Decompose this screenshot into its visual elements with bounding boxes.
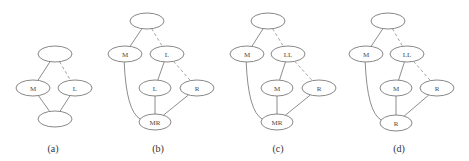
node-b-L: L — [150, 46, 184, 62]
node-c-M2: M — [261, 80, 293, 96]
node-b-top — [130, 13, 164, 29]
node-d-R: R — [420, 80, 454, 96]
edge-c-top-M — [252, 29, 263, 47]
caption-b: (b) — [152, 143, 164, 155]
node-label: M — [244, 51, 251, 59]
node-b-M: M — [108, 46, 142, 62]
caption-d: (d) — [393, 143, 405, 155]
node-ellipse — [130, 13, 164, 29]
edge-c-R-MR — [285, 95, 310, 115]
node-c-M: M — [230, 46, 264, 62]
node-label: R — [394, 120, 399, 128]
node-ellipse — [371, 13, 405, 29]
node-ellipse — [38, 46, 72, 62]
edge-c-LL-R — [295, 61, 313, 80]
node-label: MR — [272, 119, 283, 127]
edge-d-LL-R — [414, 61, 431, 80]
node-c-top — [251, 13, 285, 29]
edges-layer — [38, 29, 431, 120]
nodes-layer: MLMLLRMRMLLMRMRMLLMRR — [16, 13, 454, 131]
node-a-L: L — [58, 80, 92, 96]
node-label: R — [195, 85, 200, 93]
node-b-MR: MR — [139, 114, 171, 130]
caption-c: (c) — [272, 143, 283, 155]
edge-c-LL-M2 — [280, 62, 286, 80]
edge-d-top-LL — [392, 29, 402, 47]
captions-layer: (a)(b)(c)(d) — [47, 143, 404, 155]
edge-c-M-MR — [246, 62, 262, 119]
node-label: M — [30, 85, 37, 93]
node-label: L — [165, 51, 169, 59]
node-label: LL — [284, 51, 293, 59]
diagram-canvas: MLMLLRMRMLLMRMRMLLMRR (a)(b)(c)(d) — [0, 0, 469, 161]
node-a-bottom — [38, 111, 72, 127]
node-b-L2: L — [139, 80, 171, 96]
node-label: LL — [403, 51, 412, 59]
node-label: L — [153, 85, 157, 93]
caption-a: (a) — [47, 143, 58, 155]
edge-b-top-M — [130, 29, 142, 47]
node-a-M: M — [16, 80, 50, 96]
edge-b-L-R — [174, 61, 191, 80]
node-label: R — [317, 85, 322, 93]
node-label: L — [73, 85, 77, 93]
node-d-LL: LL — [390, 46, 424, 62]
edge-b-M-MR — [124, 62, 140, 119]
node-c-MR: MR — [261, 114, 293, 130]
node-label: M — [363, 51, 370, 59]
node-ellipse — [38, 111, 72, 127]
edge-b-top-L — [152, 29, 163, 47]
edge-a-M-bottom — [38, 96, 49, 112]
node-b-R: R — [180, 80, 214, 96]
edge-b-L-L2 — [158, 62, 164, 80]
edge-a-L-bottom — [60, 96, 70, 112]
node-c-R: R — [302, 80, 336, 96]
edge-c-top-LL — [273, 29, 284, 47]
edge-d-top-M — [371, 29, 383, 47]
node-d-M2: M — [380, 80, 412, 96]
node-label: R — [435, 85, 440, 93]
node-a-top — [38, 46, 72, 62]
edge-d-M-Rb — [365, 62, 381, 120]
edge-a-top-M — [38, 62, 50, 81]
node-ellipse — [251, 13, 285, 29]
edge-d-LL-M2 — [399, 62, 405, 80]
edge-d-R-Rb — [404, 95, 429, 116]
node-d-top — [371, 13, 405, 29]
edge-a-top-L — [60, 62, 71, 81]
node-label: M — [274, 85, 281, 93]
node-c-LL: LL — [271, 46, 305, 62]
node-label: M — [393, 85, 400, 93]
edge-b-R-MR — [163, 95, 188, 115]
node-label: M — [122, 51, 129, 59]
node-d-Rb: R — [380, 115, 412, 131]
node-label: MR — [150, 119, 161, 127]
node-d-M: M — [349, 46, 383, 62]
